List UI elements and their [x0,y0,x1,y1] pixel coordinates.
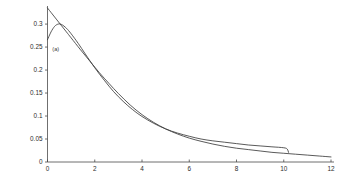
curve-annotation-label: (a) [52,46,59,52]
x-tick-label: 0 [46,165,50,172]
series-line-curve-2 [48,24,289,152]
y-tick-label: 0.05 [30,135,43,142]
y-tick-label: 0 [39,158,43,165]
x-tick-label: 4 [140,165,144,172]
y-axis-ticks: 00.050.10.150.20.250.3 [30,20,47,165]
series-line-curve-1 [48,8,332,157]
x-tick-label: 12 [327,165,335,172]
y-tick-label: 0.25 [30,43,43,50]
annotations-group: (a) [52,46,59,52]
chart-container: 00.050.10.150.20.250.3 024681012 (a) [0,0,344,184]
y-tick-label: 0.3 [34,20,43,27]
x-tick-label: 6 [187,165,191,172]
x-tick-label: 8 [235,165,239,172]
y-tick-label: 0.1 [34,112,43,119]
x-axis-ticks: 024681012 [46,160,335,173]
y-tick-label: 0.2 [34,66,43,73]
density-line-chart: 00.050.10.150.20.250.3 024681012 (a) [0,0,344,184]
y-tick-label: 0.15 [30,89,43,96]
series-group [48,8,332,157]
x-tick-label: 2 [93,165,97,172]
x-tick-label: 10 [280,165,288,172]
